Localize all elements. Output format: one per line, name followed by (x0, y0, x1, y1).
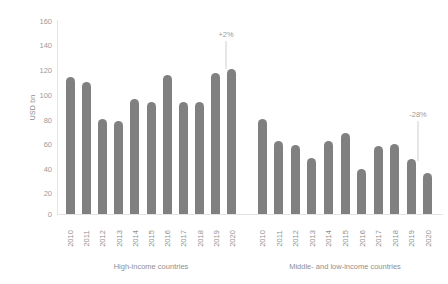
x-label-slot: 2017 (370, 218, 387, 260)
x-label-slot: 2010 (254, 218, 271, 260)
bar-middle-and-low-income-countries-2015[interactable] (341, 133, 350, 214)
bar-slot (208, 20, 224, 214)
bar-high-income-countries-2018[interactable] (195, 102, 204, 214)
bar-slot (353, 20, 370, 214)
x-label-slot: 2017 (175, 218, 191, 260)
bar-middle-and-low-income-countries-2019[interactable] (407, 159, 416, 214)
bar-high-income-countries-2011[interactable] (82, 82, 91, 214)
x-label-high-income-countries-2010: 2010 (66, 230, 75, 247)
annotation-label-high-income: +2% (218, 30, 233, 39)
x-label-slot: 2015 (337, 218, 354, 260)
group-title-high-income: High-income countries (62, 262, 240, 271)
bar-slot (143, 20, 159, 214)
y-tick-160: 160 (26, 18, 52, 26)
bar-high-income-countries-2010[interactable] (66, 77, 75, 214)
y-tick-0: 0 (26, 211, 52, 219)
x-label-high-income-countries-2015: 2015 (147, 230, 156, 247)
x-label-middle-and-low-income-countries-2014: 2014 (324, 230, 333, 247)
x-label-high-income-countries-2013: 2013 (114, 230, 123, 247)
x-label-slot: 2019 (403, 218, 420, 260)
x-label-slot: 2014 (320, 218, 337, 260)
bar-middle-and-low-income-countries-2016[interactable] (357, 169, 366, 214)
group-title-middle-low-income: Middle- and low-income countries (254, 262, 436, 271)
bar-slot (320, 20, 337, 214)
x-label-slot: 2016 (353, 218, 370, 260)
x-label-high-income-countries-2020: 2020 (227, 230, 236, 247)
bar-slot (370, 20, 387, 214)
x-axis-labels-middle-low-income: 2010201120122013201420152016201720182019… (254, 218, 436, 260)
x-label-middle-and-low-income-countries-2018: 2018 (390, 230, 399, 247)
x-label-slot: 2012 (287, 218, 304, 260)
x-label-slot: 2020 (224, 218, 240, 260)
bar-high-income-countries-2016[interactable] (163, 75, 172, 214)
x-label-slot: 2019 (208, 218, 224, 260)
bar-slot (127, 20, 143, 214)
bar-slot (94, 20, 110, 214)
bar-slot (304, 20, 321, 214)
bar-middle-and-low-income-countries-2017[interactable] (374, 146, 383, 214)
x-label-slot: 2016 (159, 218, 175, 260)
x-label-slot: 2018 (386, 218, 403, 260)
y-tick-20: 20 (26, 190, 52, 198)
plot-area (58, 20, 443, 214)
bar-slot (192, 20, 208, 214)
x-label-slot: 2010 (62, 218, 78, 260)
bar-chart: USD bn 160 140 120 100 80 60 40 20 0 +2%… (0, 0, 448, 284)
x-label-middle-and-low-income-countries-2015: 2015 (341, 230, 350, 247)
bar-slot (287, 20, 304, 214)
x-label-slot: 2012 (94, 218, 110, 260)
bar-middle-and-low-income-countries-2010[interactable] (258, 119, 267, 214)
bar-high-income-countries-2019[interactable] (211, 73, 220, 214)
x-label-high-income-countries-2018: 2018 (195, 230, 204, 247)
bar-slot (271, 20, 288, 214)
x-label-high-income-countries-2019: 2019 (211, 230, 220, 247)
x-label-slot: 2018 (192, 218, 208, 260)
x-label-high-income-countries-2014: 2014 (130, 230, 139, 247)
bar-high-income-countries-2015[interactable] (147, 102, 156, 214)
bar-slot (62, 20, 78, 214)
x-label-high-income-countries-2012: 2012 (98, 230, 107, 247)
bar-middle-and-low-income-countries-2012[interactable] (291, 145, 300, 214)
y-tick-60: 60 (26, 141, 52, 149)
bar-high-income-countries-2014[interactable] (130, 99, 139, 214)
bar-middle-and-low-income-countries-2011[interactable] (274, 141, 283, 214)
x-label-middle-and-low-income-countries-2010: 2010 (258, 230, 267, 247)
annotation-stem-high-income (226, 41, 227, 69)
bar-middle-and-low-income-countries-2020[interactable] (423, 173, 432, 214)
bar-group-high-income (62, 20, 240, 214)
bar-middle-and-low-income-countries-2018[interactable] (390, 144, 399, 214)
x-axis-line (57, 214, 443, 215)
bar-slot (175, 20, 191, 214)
y-tick-140: 140 (26, 42, 52, 50)
y-axis-title: USD bn (29, 78, 36, 138)
x-label-slot: 2014 (127, 218, 143, 260)
y-tick-120: 120 (26, 67, 52, 75)
bar-slot (159, 20, 175, 214)
x-label-slot: 2020 (419, 218, 436, 260)
x-axis-labels-high-income: 2010201120122013201420152016201720182019… (62, 218, 240, 260)
x-label-slot: 2015 (143, 218, 159, 260)
bar-slot (111, 20, 127, 214)
x-label-slot: 2011 (271, 218, 288, 260)
bar-high-income-countries-2012[interactable] (98, 119, 107, 214)
bar-high-income-countries-2017[interactable] (179, 102, 188, 214)
y-tick-40: 40 (26, 166, 52, 174)
x-label-middle-and-low-income-countries-2016: 2016 (357, 230, 366, 247)
bar-middle-and-low-income-countries-2014[interactable] (324, 141, 333, 214)
x-label-high-income-countries-2017: 2017 (179, 230, 188, 247)
x-label-middle-and-low-income-countries-2013: 2013 (307, 230, 316, 247)
bar-high-income-countries-2020[interactable] (227, 69, 236, 215)
x-label-middle-and-low-income-countries-2019: 2019 (407, 230, 416, 247)
bar-high-income-countries-2013[interactable] (114, 121, 123, 214)
x-label-slot: 2013 (111, 218, 127, 260)
x-label-middle-and-low-income-countries-2020: 2020 (423, 230, 432, 247)
x-label-middle-and-low-income-countries-2012: 2012 (291, 230, 300, 247)
x-label-high-income-countries-2011: 2011 (82, 230, 91, 246)
bar-slot (254, 20, 271, 214)
x-label-high-income-countries-2016: 2016 (163, 230, 172, 247)
bar-middle-and-low-income-countries-2013[interactable] (307, 158, 316, 214)
x-label-middle-and-low-income-countries-2011: 2011 (274, 230, 283, 246)
x-label-slot: 2013 (304, 218, 321, 260)
y-tick-80: 80 (26, 117, 52, 125)
bar-slot (337, 20, 354, 214)
